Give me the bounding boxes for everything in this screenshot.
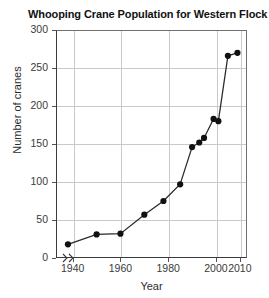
- y-axis-tick-label: 100: [14, 175, 48, 187]
- data-point: [117, 231, 123, 237]
- y-axis-tick-label: 0: [14, 251, 48, 263]
- data-point: [215, 118, 221, 124]
- y-axis-tick-label: 300: [14, 23, 48, 35]
- y-axis-tick: [52, 220, 56, 221]
- y-axis-tick-label: 200: [14, 99, 48, 111]
- x-axis-tick-label: 2010: [220, 262, 260, 274]
- y-axis-tick-label: 250: [14, 61, 48, 73]
- data-point: [225, 53, 231, 59]
- y-axis-tick-label: 150: [14, 137, 48, 149]
- y-axis-tick-label: 50: [14, 213, 48, 225]
- data-point: [201, 135, 207, 141]
- data-point: [141, 212, 147, 218]
- data-point: [234, 50, 240, 56]
- data-point: [196, 139, 202, 145]
- y-axis-tick: [52, 30, 56, 31]
- y-axis-tick: [52, 68, 56, 69]
- y-axis-tick: [52, 258, 56, 259]
- y-axis-tick: [52, 144, 56, 145]
- x-axis-tick-label: 1980: [148, 262, 188, 274]
- y-axis-tick: [52, 106, 56, 107]
- data-point: [65, 241, 71, 247]
- x-axis-tick-label: 1940: [53, 262, 93, 274]
- y-axis-tick: [52, 182, 56, 183]
- data-point: [160, 198, 166, 204]
- data-point: [177, 181, 183, 187]
- data-point: [93, 231, 99, 237]
- data-point: [189, 144, 195, 150]
- series-line: [68, 53, 238, 245]
- x-axis-tick-label: 1960: [100, 262, 140, 274]
- series-markers: [65, 50, 241, 248]
- line-chart: Whooping Crane Population for Western Fl…: [0, 0, 269, 298]
